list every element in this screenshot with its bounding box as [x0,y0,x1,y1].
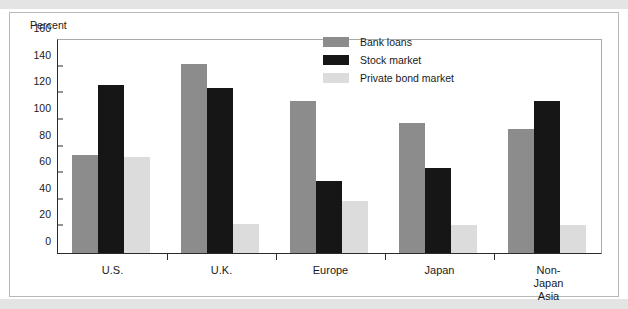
bar-private-bond-market[interactable] [342,201,368,253]
legend-item-label: Stock market [360,54,421,66]
bar-bank-loans[interactable] [290,101,316,253]
y-axis-tick-label: 80 [39,129,58,141]
legend-swatch-icon [323,37,349,47]
bar-private-bond-market[interactable] [451,225,477,253]
legend-item[interactable]: Bank loans [323,33,454,51]
bar-group [494,40,603,253]
legend-item[interactable]: Stock market [323,51,454,69]
legend-swatch-icon [323,73,349,83]
bar-bank-loans[interactable] [399,123,425,253]
bar-stock-market[interactable] [425,168,451,253]
bar-stock-market[interactable] [534,101,560,253]
bar-stock-market[interactable] [316,181,342,253]
x-axis-tick-mark [276,253,277,260]
top-background-band [0,0,628,9]
bar-stock-market[interactable] [98,85,124,253]
bar-private-bond-market[interactable] [124,157,150,253]
legend-swatch-icon [323,55,349,65]
chart-panel: Percent 020406080100120140160 U.S.U.K.Eu… [9,12,619,297]
left-margin [0,9,9,299]
bar-group [58,40,167,253]
bar-bank-loans[interactable] [72,155,98,254]
x-axis-tick-mark [385,253,386,260]
x-axis-tick-label: Non-Japan Asia [522,264,575,303]
right-margin [619,9,628,299]
y-axis-tick-label: 60 [39,155,58,167]
y-axis-tick-label: 40 [39,182,58,194]
y-axis-tick-label: 120 [33,75,58,87]
legend-item[interactable]: Private bond market [323,69,454,87]
y-axis-tick-label: 100 [33,102,58,114]
y-axis-tick-label: 0 [45,235,58,247]
chart-legend: Bank loansStock marketPrivate bond marke… [323,33,454,87]
x-axis-tick-mark [167,253,168,260]
bar-group [167,40,276,253]
x-axis-tick-label: Japan [425,264,455,277]
bar-stock-market[interactable] [207,88,233,253]
y-axis-tick-label: 160 [33,22,58,34]
x-axis-tick-mark [494,253,495,260]
legend-item-label: Private bond market [360,72,454,84]
y-axis-tick-label: 20 [39,208,58,220]
x-axis-tick-label: U.S. [102,264,123,277]
chart-figure: Percent 020406080100120140160 U.S.U.K.Eu… [0,0,628,309]
bar-bank-loans[interactable] [508,129,534,253]
legend-item-label: Bank loans [360,36,412,48]
bar-bank-loans[interactable] [181,64,207,253]
y-axis-tick-label: 140 [33,49,58,61]
x-axis-tick-label: Europe [313,264,348,277]
bar-private-bond-market[interactable] [560,225,586,253]
bar-private-bond-market[interactable] [233,224,259,253]
x-axis-tick-label: U.K. [211,264,232,277]
